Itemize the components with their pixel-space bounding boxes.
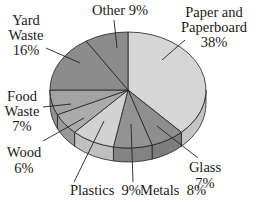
pie-chart: Paper andPaperboard38%Glass7%Metals 8%Pl… — [0, 0, 259, 202]
label-food-waste: FoodWaste7% — [4, 88, 39, 134]
label-paper-and-paperboard: Paper andPaperboard38% — [181, 4, 248, 50]
label-plastics: Plastics 9% — [70, 182, 141, 198]
label-other: Other 9% — [92, 2, 148, 18]
label-yard-waste: YardWaste16% — [8, 12, 43, 58]
label-wood: Wood6% — [7, 144, 42, 176]
label-metals: Metals 8% — [140, 182, 206, 198]
pie-slices — [50, 32, 206, 148]
